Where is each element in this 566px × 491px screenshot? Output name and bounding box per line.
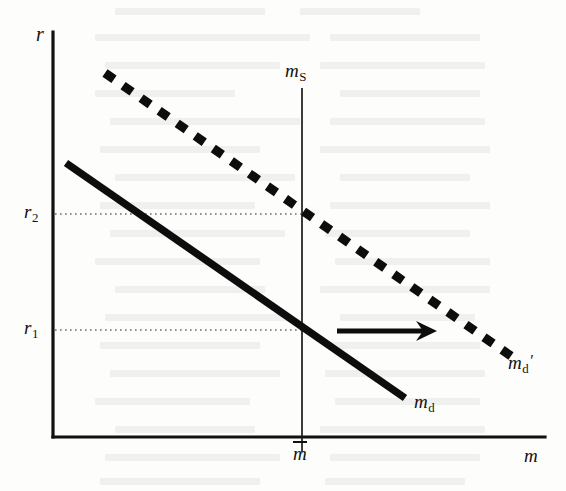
money-supply-curve-label: mS: [285, 61, 306, 84]
tick-label-r2: r2: [24, 202, 38, 225]
tick-label-m-bar: m: [293, 444, 307, 463]
plot-canvas: [0, 0, 566, 491]
money-demand-curve: [66, 163, 405, 398]
x-axis-label: m: [524, 446, 538, 465]
tick-label-r1: r1: [24, 318, 38, 341]
money-market-figure: r r2 r1 mS md md′ m m: [0, 0, 566, 491]
shift-arrow-icon: [337, 321, 437, 341]
money-demand-curve-shifted-label: md′: [508, 353, 533, 376]
y-axis-label: r: [36, 24, 44, 44]
money-demand-curve-label: md: [414, 392, 435, 415]
